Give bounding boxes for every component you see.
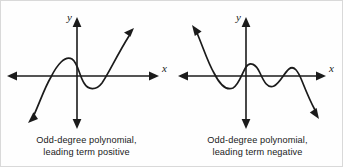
graph-odd-degree-positive: x y [1, 7, 172, 133]
curve-arrow-lower-left [28, 112, 38, 123]
caption-line-2: leading term positive [1, 146, 172, 158]
x-axis-label: x [161, 62, 167, 74]
x-axis-arrow-left [7, 72, 17, 81]
curve-arrow-lower-right [310, 108, 319, 119]
y-axis-arrow-down [242, 119, 251, 129]
caption-line-1: Odd-degree polynomial, [1, 134, 172, 146]
figure-container: x y Odd-degree polynomial, leading term … [0, 0, 343, 167]
caption-line-2: leading term negative [172, 146, 343, 158]
x-axis-arrow-right [149, 72, 159, 81]
polynomial-curve-negative-leading [192, 25, 319, 119]
curve-arrow-upper-right [124, 28, 134, 37]
caption-positive: Odd-degree polynomial, leading term posi… [1, 134, 172, 158]
graph-odd-degree-negative: x y [172, 7, 343, 133]
caption-negative: Odd-degree polynomial, leading term nega… [172, 134, 343, 158]
y-axis-arrow-down [73, 119, 82, 129]
caption-line-1: Odd-degree polynomial, [172, 134, 343, 146]
x-axis-arrow-right [316, 72, 326, 81]
y-axis-arrow-up [242, 17, 251, 27]
x-axis-arrow-left [178, 72, 188, 81]
x-axis [178, 72, 326, 81]
y-axis-arrow-up [73, 17, 82, 27]
x-axis [7, 72, 159, 81]
curve-arrow-upper-left [192, 25, 202, 36]
y-axis-label: y [66, 11, 72, 23]
panel-odd-degree-negative: x y Odd-degree polynomial, leading term … [172, 1, 343, 167]
y-axis-label: y [235, 11, 241, 23]
panel-odd-degree-positive: x y Odd-degree polynomial, leading term … [1, 1, 172, 167]
x-axis-label: x [328, 62, 334, 74]
